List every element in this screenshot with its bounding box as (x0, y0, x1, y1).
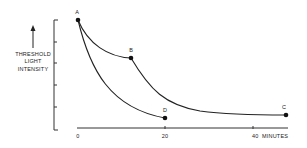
x-tick-label-20: 20 (162, 133, 169, 139)
dark-adaptation-chart: THRESHOLD LIGHT INTENSITY 0 20 40 MINUTE… (0, 0, 307, 148)
x-axis (77, 126, 288, 129)
y-axis-label-line-1: THRESHOLD (15, 51, 51, 57)
point-c (284, 113, 289, 118)
curve-a-b-c (78, 20, 286, 115)
curve-a-d (78, 20, 165, 118)
point-a (76, 18, 81, 23)
point-d (163, 116, 168, 121)
point-c-label: C (282, 104, 286, 110)
up-arrow-icon (31, 25, 36, 48)
x-tick-label-40-minutes: 40 MINUTES (252, 133, 288, 139)
y-axis (54, 20, 58, 130)
x-tick-label-0: 0 (76, 133, 79, 139)
point-b (129, 56, 134, 61)
point-b-label: B (129, 47, 133, 53)
y-axis-label-line-2: LIGHT (24, 58, 42, 64)
point-d-label: D (163, 107, 167, 113)
y-axis-label-line-3: INTENSITY (18, 66, 49, 72)
point-a-label: A (75, 9, 79, 15)
